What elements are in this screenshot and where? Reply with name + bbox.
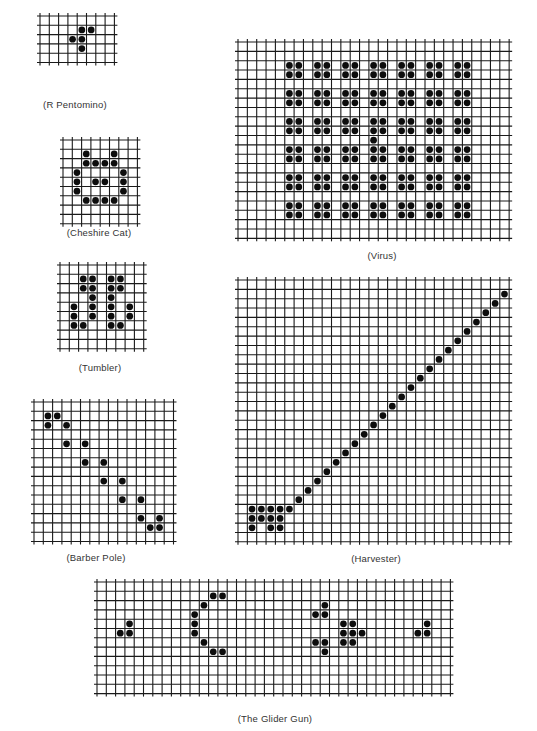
live-cell bbox=[258, 506, 265, 513]
live-cell bbox=[398, 146, 405, 153]
live-cell bbox=[117, 630, 124, 637]
live-cell bbox=[74, 188, 81, 195]
live-cell bbox=[454, 62, 461, 69]
live-cell bbox=[454, 156, 461, 163]
live-cell bbox=[191, 621, 198, 628]
live-cell bbox=[370, 90, 377, 97]
live-cell bbox=[111, 151, 118, 158]
tumbler-grid bbox=[60, 265, 144, 349]
live-cell bbox=[454, 90, 461, 97]
live-cell bbox=[352, 62, 359, 69]
live-cell bbox=[408, 384, 415, 391]
live-cell bbox=[314, 202, 321, 209]
pattern-cheshire-cat bbox=[63, 140, 137, 224]
live-cell bbox=[342, 174, 349, 181]
live-cell bbox=[314, 99, 321, 106]
live-cell bbox=[380, 174, 387, 181]
live-cell bbox=[286, 71, 293, 78]
live-cell bbox=[408, 212, 415, 219]
live-cell bbox=[108, 294, 115, 301]
live-cell bbox=[426, 184, 433, 191]
live-cell bbox=[436, 212, 443, 219]
live-cell bbox=[156, 524, 163, 531]
live-cell bbox=[408, 184, 415, 191]
live-cell bbox=[352, 118, 359, 125]
live-cell bbox=[120, 169, 127, 176]
live-cell bbox=[323, 146, 330, 153]
live-cell bbox=[314, 174, 321, 181]
live-cell bbox=[63, 441, 70, 448]
live-cell bbox=[436, 184, 443, 191]
live-cell bbox=[464, 99, 471, 106]
live-cell bbox=[286, 99, 293, 106]
live-cell bbox=[83, 160, 90, 167]
live-cell bbox=[45, 413, 52, 420]
caption-glider-gun: (The Glider Gun) bbox=[238, 713, 312, 724]
live-cell bbox=[314, 184, 321, 191]
live-cell bbox=[286, 62, 293, 69]
live-cell bbox=[380, 99, 387, 106]
live-cell bbox=[342, 118, 349, 125]
live-cell bbox=[314, 118, 321, 125]
live-cell bbox=[398, 62, 405, 69]
live-cell bbox=[108, 285, 115, 292]
pattern-barber-pole bbox=[34, 402, 174, 542]
live-cell bbox=[258, 515, 265, 522]
live-cell bbox=[340, 630, 347, 637]
live-cell bbox=[464, 62, 471, 69]
live-cell bbox=[210, 593, 217, 600]
live-cell bbox=[454, 127, 461, 134]
live-cell bbox=[398, 212, 405, 219]
pattern-glider-gun bbox=[97, 582, 450, 694]
live-cell bbox=[322, 602, 329, 609]
live-cell bbox=[436, 127, 443, 134]
caption-r-pentomino: (R Pentomino) bbox=[43, 99, 107, 110]
live-cell bbox=[380, 202, 387, 209]
live-cell bbox=[426, 202, 433, 209]
live-cell bbox=[380, 62, 387, 69]
live-cell bbox=[323, 71, 330, 78]
live-cell bbox=[426, 62, 433, 69]
pattern-r-pentomino bbox=[40, 16, 114, 63]
live-cell bbox=[100, 478, 107, 485]
live-cell bbox=[408, 118, 415, 125]
live-cell bbox=[191, 630, 198, 637]
live-cell bbox=[349, 639, 356, 646]
live-cell bbox=[398, 156, 405, 163]
live-cell bbox=[295, 212, 302, 219]
live-cell bbox=[120, 179, 127, 186]
live-cell bbox=[119, 496, 126, 503]
live-cell bbox=[92, 197, 99, 204]
live-cell bbox=[361, 431, 368, 438]
live-cell bbox=[314, 212, 321, 219]
caption-virus: (Virus) bbox=[367, 250, 396, 261]
live-cell bbox=[426, 156, 433, 163]
live-cell bbox=[83, 151, 90, 158]
live-cell bbox=[464, 184, 471, 191]
live-cell bbox=[92, 179, 99, 186]
live-cell bbox=[295, 71, 302, 78]
live-cell bbox=[436, 146, 443, 153]
live-cell bbox=[286, 118, 293, 125]
live-cell bbox=[83, 197, 90, 204]
live-cell bbox=[322, 639, 329, 646]
live-cell bbox=[323, 202, 330, 209]
live-cell bbox=[71, 304, 78, 311]
live-cell bbox=[426, 174, 433, 181]
live-cell bbox=[89, 304, 96, 311]
live-cell bbox=[286, 127, 293, 134]
live-cell bbox=[219, 648, 226, 655]
live-cell bbox=[119, 478, 126, 485]
live-cell bbox=[120, 188, 127, 195]
live-cell bbox=[464, 202, 471, 209]
live-cell bbox=[295, 62, 302, 69]
live-cell bbox=[380, 146, 387, 153]
live-cell bbox=[352, 156, 359, 163]
live-cell bbox=[352, 127, 359, 134]
live-cell bbox=[323, 90, 330, 97]
live-cell bbox=[380, 212, 387, 219]
live-cell bbox=[436, 174, 443, 181]
live-cell bbox=[426, 365, 433, 372]
live-cell bbox=[314, 127, 321, 134]
live-cell bbox=[295, 146, 302, 153]
